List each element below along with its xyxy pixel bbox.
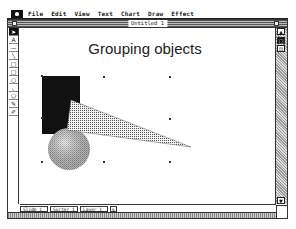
text-tool-icon[interactable]: A bbox=[9, 36, 18, 44]
menu-file[interactable]: File bbox=[28, 10, 43, 17]
horizontal-scrollbar[interactable] bbox=[8, 212, 278, 218]
document-window: Untitled 1 ➤ A — ╲ □ ▢ ○ ◟ ⬠ ✎ ✐ Groupin… bbox=[7, 19, 288, 219]
grouped-shapes[interactable] bbox=[20, 28, 270, 204]
tool-palette: ➤ A — ╲ □ ▢ ○ ◟ ⬠ ✎ ✐ bbox=[9, 28, 19, 204]
apple-menu-icon[interactable] bbox=[11, 10, 23, 18]
selection-handle[interactable] bbox=[169, 118, 171, 120]
polygon-tool-icon[interactable]: ⬠ bbox=[9, 92, 18, 100]
menu-edit[interactable]: Edit bbox=[51, 10, 66, 17]
freehand-tool-icon[interactable]: ✎ bbox=[9, 100, 18, 108]
selection-handle[interactable] bbox=[103, 76, 105, 78]
rectangle-tool-icon[interactable]: □ bbox=[9, 60, 18, 68]
menu-draw[interactable]: Draw bbox=[148, 10, 163, 17]
pointer-tool-icon[interactable]: ➤ bbox=[9, 28, 18, 36]
selection-handle[interactable] bbox=[169, 76, 171, 78]
selection-handle[interactable] bbox=[41, 161, 43, 163]
menu-text[interactable]: Text bbox=[98, 10, 113, 17]
selection-handle[interactable] bbox=[41, 117, 43, 119]
screen: File Edit View Text Chart Draw Effect Un… bbox=[7, 9, 288, 219]
slide-view-icon[interactable]: □ bbox=[277, 37, 285, 44]
rounded-rectangle-tool-icon[interactable]: ▢ bbox=[9, 68, 18, 76]
window-title: Untitled 1 bbox=[128, 20, 167, 27]
selection-handle[interactable] bbox=[41, 75, 43, 77]
title-bar[interactable]: Untitled 1 bbox=[8, 20, 287, 28]
menu-effect[interactable]: Effect bbox=[171, 10, 194, 17]
resize-grow-icon[interactable] bbox=[276, 205, 287, 218]
close-box-icon[interactable] bbox=[12, 21, 17, 26]
menu-chart[interactable]: Chart bbox=[121, 10, 140, 17]
slide-canvas[interactable]: Grouping objects bbox=[20, 28, 270, 204]
outline-view-icon[interactable]: ⊡ bbox=[277, 45, 285, 52]
zoom-box-icon[interactable] bbox=[274, 21, 279, 26]
scroll-down-icon[interactable]: ▼ bbox=[277, 197, 285, 204]
diagonal-line-tool-icon[interactable]: ╲ bbox=[9, 52, 18, 60]
horizontal-line-tool-icon[interactable]: — bbox=[9, 44, 18, 52]
vertical-scrollbar[interactable]: ▲ □ ⊡ ▼ bbox=[275, 28, 287, 204]
selection-handle[interactable] bbox=[169, 161, 171, 163]
scroll-up-icon[interactable]: ▲ bbox=[277, 28, 285, 35]
selection-handle[interactable] bbox=[103, 161, 105, 163]
arc-tool-icon[interactable]: ◟ bbox=[9, 84, 18, 92]
menu-bar: File Edit View Text Chart Draw Effect bbox=[7, 9, 288, 19]
menu-view[interactable]: View bbox=[75, 10, 90, 17]
oval-tool-icon[interactable]: ○ bbox=[9, 76, 18, 84]
eyedropper-tool-icon[interactable]: ✐ bbox=[9, 108, 18, 116]
